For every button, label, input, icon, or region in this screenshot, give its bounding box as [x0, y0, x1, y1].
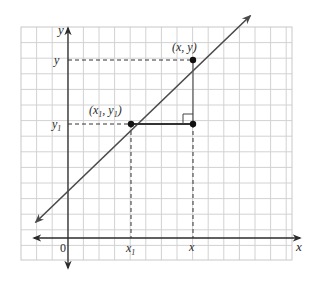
tick-label-y1: y1: [51, 117, 61, 133]
grid: [21, 27, 292, 260]
origin-label: 0: [60, 241, 66, 255]
point-x-y: [190, 57, 196, 63]
point-x1-y1: [128, 121, 134, 127]
tick-label-x1: x1: [125, 241, 135, 257]
point-corner: [190, 121, 196, 127]
slope-diagram: y x 0 (x, y) (x1, y1) y y1 x1 x: [0, 0, 316, 291]
y-axis-label: y: [56, 22, 64, 37]
tick-label-x: x: [188, 240, 195, 254]
point-x-y-label: (x, y): [172, 40, 197, 54]
tick-label-y: y: [53, 53, 60, 67]
point-x1-y1-label: (x1, y1): [89, 103, 122, 119]
x-axis-label: x: [295, 239, 302, 254]
grid-border: [21, 27, 292, 260]
